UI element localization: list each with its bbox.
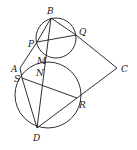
lower-circle [15,62,81,128]
segment-cr [77,68,117,98]
label-d: D [32,133,40,143]
segment-pq [37,35,76,42]
label-b: B [46,6,54,16]
geometry-diagram: B P Q M A N S C R D [0,0,137,150]
label-s: S [14,74,20,84]
label-p: P [27,39,35,49]
label-r: R [78,100,86,110]
segment-sd [22,78,37,128]
upper-circle [36,18,76,58]
segment-rd [37,98,77,128]
label-n: N [35,68,45,78]
label-c: C [121,64,128,74]
segment-qc [76,35,117,68]
segment-sr [22,78,77,98]
label-m: M [36,56,47,66]
label-a: A [10,64,18,74]
label-q: Q [79,27,87,37]
